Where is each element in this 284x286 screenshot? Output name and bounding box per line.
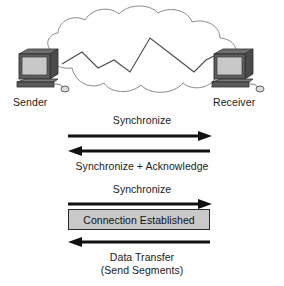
connection-established-label: Connection Established — [83, 214, 194, 226]
arrow-right-icon — [68, 199, 212, 209]
message-arrow-syn — [0, 130, 284, 142]
connection-established-banner: Connection Established — [68, 209, 210, 230]
receiver-label: Receiver — [213, 96, 255, 108]
desktop-computer-icon — [212, 49, 264, 92]
message-label-syn-ack: Synchronize + Acknowledge — [0, 160, 284, 173]
sender-host — [14, 46, 76, 94]
desktop-computer-icon — [17, 49, 69, 92]
message-label-syn: Synchronize — [0, 114, 284, 127]
arrow-left-icon — [68, 146, 210, 156]
arrow-right-icon — [68, 131, 212, 141]
message-label-data-transfer: Data Transfer — [0, 251, 284, 264]
message-arrow-data-transfer — [0, 236, 284, 248]
tcp-handshake-diagram: Sender Receiver Synchronize — [0, 0, 284, 286]
arrow-left-icon — [68, 237, 210, 247]
message-label-ack: Synchronize — [0, 183, 284, 196]
sender-label: Sender — [13, 96, 47, 108]
message-label-data-transfer-detail: (Send Segments) — [0, 264, 284, 277]
receiver-host — [209, 46, 271, 94]
message-arrow-syn-ack — [0, 145, 284, 157]
